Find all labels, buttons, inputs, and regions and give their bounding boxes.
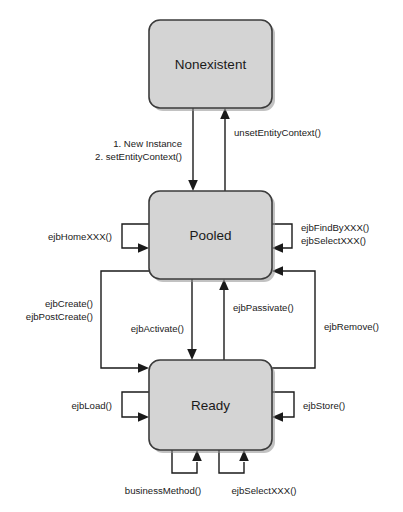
transition-ejb-create: ejbCreate() ejbPostCreate() [26,271,149,373]
transition-ejb-home: ejbHomeXXX() [48,224,149,253]
state-diagram: 1. New Instance 2. setEntityContext() un… [0,0,403,512]
transition-ejb-remove: ejbRemove() [272,266,379,368]
create-instance-arrowhead [188,180,198,191]
ejb-home-label: ejbHomeXXX() [48,231,112,242]
ejb-load-label: ejbLoad() [71,400,112,411]
create-instance-label-line1: 1. New Instance [113,138,182,149]
transition-ejb-store: ejbStore() [272,392,345,422]
ejb-create-label-line2: ejbPostCreate() [26,311,93,322]
transition-ejb-find-select: ejbFindByXXX() ejbSelectXXX() [272,222,369,253]
transition-unset-entity-context: unsetEntityContext() [220,108,321,191]
ejb-select-line [219,450,244,473]
business-method-label: businessMethod() [125,485,201,496]
unset-entity-context-label: unsetEntityContext() [234,127,321,138]
ready-label: Ready [191,398,230,413]
ejb-load-line [122,392,149,417]
transition-create-instance: 1. New Instance 2. setEntityContext() [95,108,198,191]
business-method-line [172,450,197,473]
ejb-home-line [122,224,149,248]
state-nonexistent[interactable]: Nonexistent [149,20,275,111]
transition-business-method: businessMethod() [125,450,202,496]
ejb-activate-label: ejbActivate() [131,323,184,334]
nonexistent-label: Nonexistent [175,57,247,72]
transition-ejb-load: ejbLoad() [71,392,149,422]
ejb-passivate-label: ejbPassivate() [233,302,294,313]
ejb-home-arrowhead [138,243,149,253]
ejb-remove-label: ejbRemove() [324,321,379,332]
create-instance-label-line2: 2. setEntityContext() [95,151,182,162]
ejb-create-line [101,271,149,368]
state-pooled[interactable]: Pooled [149,191,275,282]
transition-ejb-activate: ejbActivate() [131,279,197,360]
ejb-find-select-label-line1: ejbFindByXXX() [301,222,369,233]
ejb-create-arrowhead [138,363,149,373]
state-diagram-canvas: 1. New Instance 2. setEntityContext() un… [0,0,403,512]
state-ready[interactable]: Ready [149,360,275,453]
pooled-label: Pooled [189,228,231,243]
ejb-load-arrowhead [138,412,149,422]
ejb-find-select-label-line2: ejbSelectXXX() [301,235,366,246]
ejb-select-label: ejbSelectXXX() [231,485,296,496]
ejb-remove-line [272,271,315,368]
ejb-store-label: ejbStore() [303,400,345,411]
ejb-activate-arrowhead [187,349,197,360]
transition-ejb-passivate: ejbPassivate() [219,279,294,360]
transition-ejb-select: ejbSelectXXX() [219,450,297,496]
ejb-create-label-line1: ejbCreate() [45,298,93,309]
